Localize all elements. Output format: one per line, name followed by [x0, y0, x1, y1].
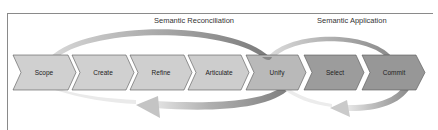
chevron-step-create: Create	[72, 55, 134, 90]
chevron-step-unify: Unify	[246, 55, 306, 90]
chevron-step-commit: Commit	[362, 55, 425, 90]
step-label-create: Create	[93, 69, 113, 76]
chevron-step-refine: Refine	[130, 55, 192, 90]
step-label-articulate: Articulate	[205, 69, 232, 76]
step-label-unify: Unify	[270, 69, 286, 77]
step-label-scope: Scope	[35, 69, 54, 77]
step-label-select: Select	[326, 69, 344, 76]
step-label-refine: Refine	[152, 69, 171, 76]
chevron-step-scope: Scope	[13, 55, 76, 90]
process-diagram: Scope Create Refine Articulate Unify Sel…	[0, 0, 438, 130]
chevron-step-select: Select	[304, 55, 364, 90]
step-label-commit: Commit	[383, 69, 406, 76]
chevron-step-articulate: Articulate	[188, 55, 249, 90]
